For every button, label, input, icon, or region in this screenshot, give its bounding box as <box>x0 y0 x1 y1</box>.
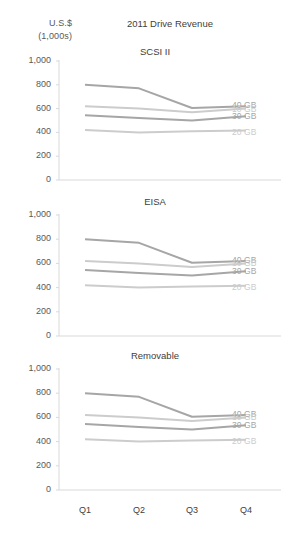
y-axis-unit-line-1: U.S.$ <box>6 18 72 28</box>
series-line-40-gb <box>85 239 246 263</box>
legend-label-30-gb: 30 GB <box>232 111 257 121</box>
y-axis-tick-label: 800 <box>11 387 51 397</box>
legend-label-20-gb: 20 GB <box>232 282 257 292</box>
legend-label-30-gb: 30 GB <box>232 266 257 276</box>
chart-figure: U.S.$ (1,000s) 2011 Drive Revenue SCSI I… <box>0 0 298 537</box>
y-axis-tick-label: 200 <box>11 306 51 316</box>
y-axis-tick-label: 1,000 <box>11 55 51 65</box>
y-axis-tick-label: 1,000 <box>11 209 51 219</box>
x-axis-tick-label-q1: Q1 <box>70 505 100 515</box>
x-axis-tick-label-q4: Q4 <box>231 505 261 515</box>
series-line-40-gb <box>85 393 246 417</box>
legend-label-30-gb: 30 GB <box>232 420 257 430</box>
series-line-40-gb <box>85 85 246 108</box>
y-axis-tick-label: 400 <box>11 282 51 292</box>
series-line-20-gb <box>85 130 246 132</box>
panel-title: SCSI II <box>60 46 250 57</box>
y-axis-tick-label: 0 <box>11 484 51 494</box>
series-line-10-gb <box>85 261 246 267</box>
y-axis-tick-label: 200 <box>11 460 51 470</box>
legend-label-20-gb: 20 GB <box>232 436 257 446</box>
series-line-20-gb <box>85 285 246 287</box>
y-axis-tick-label: 800 <box>11 233 51 243</box>
chart-title: 2011 Drive Revenue <box>75 18 265 29</box>
y-axis-tick-label: 0 <box>11 330 51 340</box>
y-axis-tick-label: 800 <box>11 79 51 89</box>
series-line-30-gb <box>85 424 246 429</box>
series-line-20-gb <box>85 439 246 441</box>
x-axis-tick-label-q2: Q2 <box>124 505 154 515</box>
y-axis-tick-label: 200 <box>11 150 51 160</box>
y-axis-unit-line-2: (1,000s) <box>6 31 72 41</box>
series-line-30-gb <box>85 115 246 120</box>
y-axis-tick-label: 0 <box>11 174 51 184</box>
y-axis-tick-label: 1,000 <box>11 363 51 373</box>
legend-label-20-gb: 20 GB <box>232 127 257 137</box>
series-line-10-gb <box>85 106 246 112</box>
series-line-10-gb <box>85 415 246 421</box>
y-axis-tick-label: 600 <box>11 411 51 421</box>
y-axis-tick-label: 400 <box>11 126 51 136</box>
x-axis-tick-label-q3: Q3 <box>177 505 207 515</box>
y-axis-tick-label: 600 <box>11 257 51 267</box>
panel-title: EISA <box>60 196 250 207</box>
y-axis-tick-label: 600 <box>11 103 51 113</box>
y-axis-tick-label: 400 <box>11 436 51 446</box>
panel-title: Removable <box>60 350 250 361</box>
series-line-30-gb <box>85 270 246 275</box>
